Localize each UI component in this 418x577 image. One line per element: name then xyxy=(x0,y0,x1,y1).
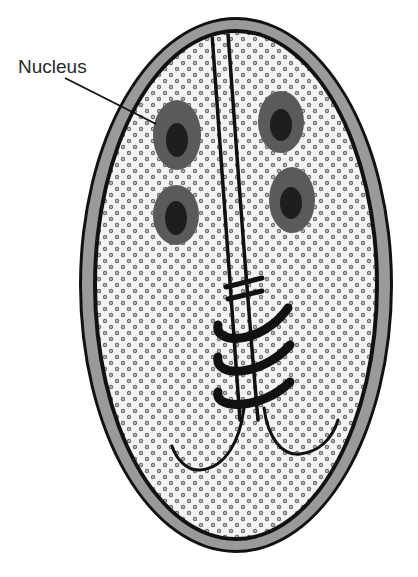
nucleus-label: Nucleus xyxy=(18,56,87,77)
nucleus-3 xyxy=(153,185,199,245)
nucleus-2 xyxy=(258,91,304,153)
protozoan-cell-diagram: Nucleus xyxy=(0,0,418,577)
nucleus-1 xyxy=(153,100,201,170)
nucleus-4 xyxy=(269,167,315,233)
